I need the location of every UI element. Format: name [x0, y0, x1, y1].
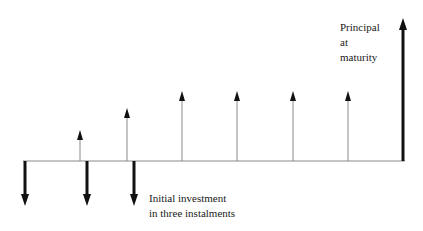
arrow-down-icon: [83, 194, 91, 206]
label-line: at: [340, 35, 380, 50]
arrow-up-icon: [77, 130, 83, 140]
label-line: Initial investment: [149, 191, 235, 206]
label-line: maturity: [340, 50, 380, 65]
arrow-up-icon: [124, 108, 130, 118]
label-line: Principal: [340, 20, 380, 35]
arrow-up-icon: [290, 91, 296, 101]
initial-investment-label: Initial investment in three instalments: [149, 191, 235, 221]
arrow-up-icon: [345, 91, 351, 101]
arrow-up-icon: [234, 91, 240, 101]
arrow-up-icon: [399, 18, 407, 30]
label-line: in three instalments: [149, 206, 235, 221]
arrow-up-icon: [179, 91, 185, 101]
arrow-down-icon: [21, 194, 29, 206]
arrow-down-icon: [130, 194, 138, 206]
principal-at-maturity-label: Principal at maturity: [340, 20, 380, 65]
